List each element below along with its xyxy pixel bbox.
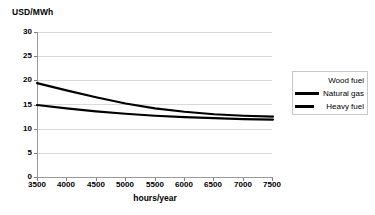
x-tick-label-6500: 6500 <box>196 180 230 189</box>
series-line-natural-gas <box>37 83 273 117</box>
x-tick-mark-6000 <box>184 178 185 181</box>
x-tick-label-7500: 7500 <box>255 180 289 189</box>
series-plot <box>37 32 273 178</box>
legend-swatch-natural-gas <box>295 92 319 95</box>
legend-swatch-heavy-fuel <box>295 105 314 108</box>
legend-item-wood-fuel: Wood fuel <box>293 74 367 87</box>
y-tick-label-5: 5 <box>10 148 32 157</box>
x-axis-title: hours/year <box>37 193 273 203</box>
x-tick-mark-7500 <box>272 178 273 181</box>
legend-label-wood-fuel: Wood fuel <box>328 76 364 85</box>
chart-container: USD/MWh 30 25 20 15 10 5 0 3500 4000 450… <box>0 0 375 215</box>
y-tick-label-25: 25 <box>10 51 32 60</box>
x-tick-mark-7000 <box>243 178 244 181</box>
x-tick-mark-4500 <box>96 178 97 181</box>
x-tick-mark-3500 <box>37 178 38 181</box>
y-tick-label-20: 20 <box>10 75 32 84</box>
y-tick-label-10: 10 <box>10 124 32 133</box>
legend-label-heavy-fuel: Heavy fuel <box>326 102 364 111</box>
x-tick-mark-6500 <box>213 178 214 181</box>
x-tick-label-5000: 5000 <box>108 180 142 189</box>
legend-swatch-wood-fuel <box>295 79 319 82</box>
y-tick-label-30: 30 <box>10 27 32 36</box>
legend-item-heavy-fuel: Heavy fuel <box>293 100 367 113</box>
series-line-heavy-fuel <box>37 105 273 120</box>
x-tick-mark-4000 <box>66 178 67 181</box>
y-axis-title: USD/MWh <box>12 7 53 17</box>
legend: Wood fuel Natural gas Heavy fuel <box>292 71 368 115</box>
x-tick-mark-5500 <box>155 178 156 181</box>
legend-item-natural-gas: Natural gas <box>293 87 367 100</box>
y-tick-label-15: 15 <box>10 100 32 109</box>
legend-label-natural-gas: Natural gas <box>323 89 364 98</box>
x-tick-label-4000: 4000 <box>49 180 83 189</box>
x-tick-mark-5000 <box>125 178 126 181</box>
